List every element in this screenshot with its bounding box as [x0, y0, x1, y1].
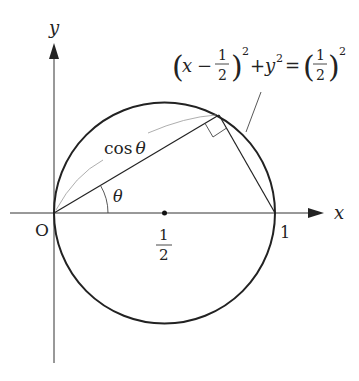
- eq-frac2-num: 1: [316, 47, 325, 63]
- eq-x: x: [182, 55, 192, 76]
- equation-leader-line: [246, 92, 261, 132]
- x-axis-arrow-icon: [308, 208, 324, 218]
- circle-diagram: y x O 1 1 2 cosθ θ ( x − 1 2 ) 2 + y 2 =…: [0, 0, 359, 381]
- eq-plus: +: [250, 55, 265, 76]
- eq-frac1-num: 1: [218, 47, 227, 63]
- y-axis-label: y: [48, 17, 60, 38]
- center-point: [162, 211, 167, 216]
- theta-label: θ: [113, 187, 123, 206]
- eq-y: y: [264, 55, 276, 76]
- eq-frac1-den: 2: [218, 67, 227, 83]
- right-angle-mark: [205, 123, 227, 137]
- x-axis-label: x: [334, 202, 344, 223]
- eq-equals: =: [285, 55, 300, 76]
- circle-equation: ( x − 1 2 ) 2 + y 2 = ( 1 2 ) 2: [172, 45, 346, 84]
- chord-op: [54, 115, 219, 213]
- eq-minus: −: [197, 55, 212, 76]
- eq-sq-3: 2: [339, 45, 346, 58]
- eq-sq-1: 2: [242, 45, 249, 58]
- y-axis-arrow-icon: [49, 43, 59, 59]
- eq-lparen-2: (: [303, 49, 315, 84]
- tick-label-half-denominator: 2: [159, 246, 169, 264]
- eq-rparen-1: ): [231, 49, 243, 84]
- cos-theta-label: cosθ: [104, 138, 146, 158]
- tick-label-one: 1: [280, 223, 290, 242]
- cos-theta-symbol: θ: [135, 138, 145, 158]
- origin-label: O: [35, 220, 49, 240]
- theta-arc: [101, 186, 109, 214]
- cos-text: cos: [104, 138, 132, 158]
- eq-rparen-2: ): [328, 49, 340, 84]
- eq-frac2-den: 2: [316, 67, 325, 83]
- eq-sq-2: 2: [276, 52, 283, 65]
- tick-label-half-numerator: 1: [159, 226, 169, 244]
